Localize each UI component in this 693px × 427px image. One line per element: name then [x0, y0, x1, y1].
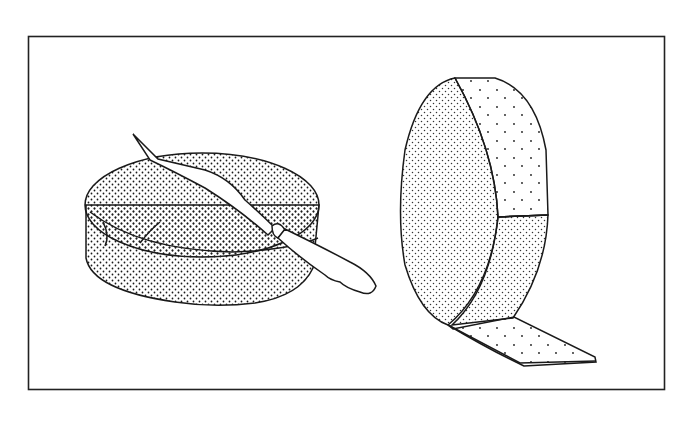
standing-cheese-wheel-peeled-rind — [401, 78, 597, 366]
round-cheese-with-knife — [85, 134, 376, 305]
cheese-illustration — [0, 0, 693, 427]
